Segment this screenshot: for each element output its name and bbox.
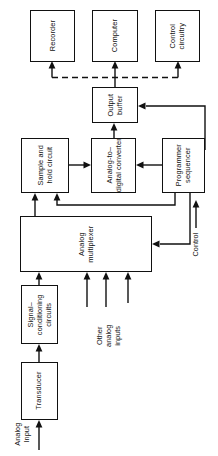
arrowhead-mux-input-3 [125, 272, 132, 280]
arrowhead-sah-left [32, 193, 39, 201]
block-diagram: Recorder Computer Control circuitry Outp… [0, 0, 218, 456]
block-analog-multiplexer-line2: multiplexer [86, 226, 95, 263]
label-control-signal: Control [178, 240, 214, 254]
block-sample-and-hold-line2: hold circuit [45, 145, 54, 185]
block-signal-conditioning-label: Signal– conditioning circuits [26, 294, 54, 335]
block-control-circuitry[interactable]: Control circuitry [155, 10, 200, 62]
block-adc-line2: digital converter [114, 139, 123, 193]
block-control-circuitry-label: Control circuitry [168, 23, 186, 49]
block-programmer-sequencer[interactable]: Programmer sequencer [162, 138, 205, 193]
block-computer[interactable]: Computer [92, 10, 138, 62]
arrowhead-programmer-control [193, 200, 200, 208]
block-signal-conditioning-line2: conditioning [35, 294, 44, 335]
block-signal-conditioning[interactable]: Signal– conditioning circuits [21, 285, 58, 344]
block-analog-multiplexer-label: Analog multiplexer [77, 226, 95, 263]
block-sample-and-hold-line1: Sample and [36, 145, 45, 185]
block-analog-multiplexer-line1: Analog [77, 226, 86, 263]
block-programmer-sequencer-line2: sequencer [184, 144, 193, 186]
block-sample-and-hold-label: Sample and hold circuit [36, 145, 54, 185]
arrowhead-adc-left [84, 162, 92, 169]
block-recorder[interactable]: Recorder [30, 10, 75, 62]
block-programmer-sequencer-label: Programmer sequencer [174, 144, 192, 186]
block-adc-line1: Analog-to– [104, 139, 113, 193]
block-control-circuitry-line2: circuitry [177, 23, 186, 49]
arrowhead-sah-right [54, 193, 61, 201]
block-sample-and-hold[interactable]: Sample and hold circuit [21, 138, 69, 193]
arrowhead-recorder [49, 61, 56, 69]
block-signal-conditioning-line1: Signal– [26, 294, 35, 335]
block-output-buffer-line2: buffer [115, 94, 124, 117]
label-analog-input-line1: Analog [13, 422, 22, 446]
arrowhead-control-circuitry [175, 61, 182, 69]
block-signal-conditioning-line3: circuits [44, 294, 53, 335]
block-output-buffer-line1: Output [106, 94, 115, 117]
block-transducer[interactable]: Transducer [21, 362, 58, 420]
arrowhead-output-buffer [111, 123, 118, 131]
arrowhead-mux-input-2 [103, 272, 110, 280]
block-analog-multiplexer[interactable]: Analog multiplexer [20, 216, 152, 272]
arrowhead-adc-right [136, 162, 144, 169]
label-control-signal-text: Control [191, 227, 200, 263]
label-analog-input-line2: Input [22, 422, 31, 446]
arrowhead-signalcond [36, 344, 43, 352]
block-transducer-label: Transducer [35, 372, 44, 410]
label-analog-input: Analog Input [2, 425, 42, 449]
label-other-analog-inputs-line1: Other [95, 321, 104, 351]
arrowhead-mux-left [36, 272, 43, 280]
arrowhead-mux-input-1 [84, 272, 91, 280]
arrowhead-computer [112, 61, 119, 69]
block-adc-label: Analog-to– digital converter [104, 139, 122, 193]
wire-programmer-to-sah [57, 193, 175, 205]
block-computer-label: Computer [110, 19, 119, 52]
arrowhead-mux-right [152, 241, 160, 248]
block-output-buffer-label: Output buffer [106, 94, 124, 117]
arrowhead-output-buffer-right [138, 103, 146, 110]
block-recorder-label: Recorder [48, 20, 57, 51]
label-other-analog-inputs: Other analog inputs [74, 322, 144, 352]
block-output-buffer[interactable]: Output buffer [92, 87, 138, 123]
label-other-analog-inputs-line2: analog [104, 321, 113, 351]
block-control-circuitry-line1: Control [168, 23, 177, 49]
label-other-analog-inputs-line3: inputs [114, 321, 123, 351]
block-adc[interactable]: Analog-to– digital converter [91, 138, 136, 193]
